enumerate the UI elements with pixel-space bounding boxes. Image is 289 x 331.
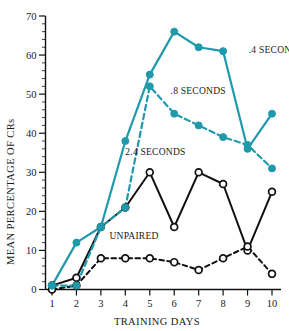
y-tick-label: 20: [26, 206, 37, 217]
x-tick-label: 4: [123, 298, 129, 309]
data-point: [146, 169, 153, 176]
data-point: [171, 110, 178, 117]
data-point: [171, 224, 178, 231]
x-tick-label: 2: [74, 298, 79, 309]
data-point: [220, 134, 227, 141]
x-tick-label: 7: [196, 298, 201, 309]
data-point: [220, 255, 227, 262]
x-tick-label: 1: [49, 298, 54, 309]
data-point: [269, 110, 276, 117]
x-tick-label: 9: [245, 298, 250, 309]
data-point: [146, 255, 153, 262]
data-point: [269, 165, 276, 172]
y-axis-title: MEAN PERCENTAGE OF CRs: [5, 118, 16, 265]
x-axis-title: TRAINING DAYS: [114, 316, 200, 327]
data-point: [122, 255, 129, 262]
chart-figure: MEAN PERCENTAGE OF CRs TRAINING DAYS 010…: [0, 0, 289, 331]
y-tick-label: 30: [26, 167, 37, 178]
x-tick-label: 10: [267, 298, 278, 309]
data-point: [49, 282, 56, 289]
data-point: [122, 204, 129, 211]
data-point: [220, 181, 227, 188]
data-point: [269, 188, 276, 195]
data-point: [220, 48, 227, 55]
data-point: [146, 71, 153, 78]
data-point: [195, 169, 202, 176]
data-point: [195, 44, 202, 51]
y-tick-label: 40: [26, 128, 37, 139]
y-tick-label: 0: [31, 284, 36, 295]
x-tick-label: 6: [172, 298, 177, 309]
data-point: [97, 223, 104, 230]
y-tick-label: 70: [26, 11, 37, 22]
x-tick-label: 5: [147, 298, 152, 309]
data-point: [146, 83, 153, 90]
data-point: [244, 243, 251, 250]
data-point: [171, 259, 178, 266]
data-point: [97, 255, 104, 262]
data-point: [244, 145, 251, 152]
data-point: [269, 270, 276, 277]
data-point: [73, 239, 80, 246]
data-point: [171, 28, 178, 35]
data-point: [195, 267, 202, 274]
series-label: UNPAIRED: [109, 230, 158, 241]
y-tick-label: 10: [26, 245, 37, 256]
y-tick-label: 60: [26, 50, 37, 61]
x-tick-label: 3: [98, 298, 103, 309]
data-point: [195, 122, 202, 129]
data-point: [122, 138, 129, 145]
series-label: .4 SECONDS: [249, 44, 289, 55]
series-label: .8 SECONDS: [171, 85, 226, 96]
data-point: [73, 282, 80, 289]
series-label: 2.4 SECONDS: [125, 146, 185, 157]
x-tick-label: 8: [220, 298, 225, 309]
data-point: [73, 274, 80, 281]
y-tick-label: 50: [26, 89, 37, 100]
